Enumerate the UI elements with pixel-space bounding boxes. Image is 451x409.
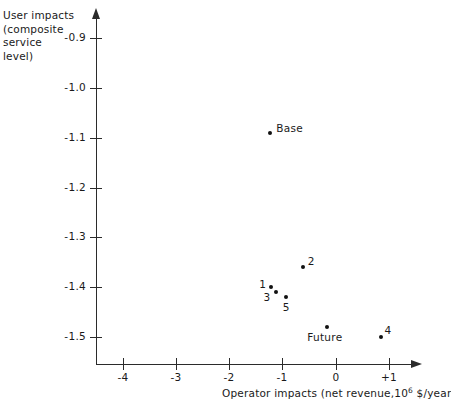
data-point-marker — [301, 265, 305, 269]
data-point-label: 4 — [385, 324, 392, 336]
y-tick-label: -1.1 — [64, 131, 86, 143]
y-axis-arrow-icon — [92, 8, 100, 19]
x-tick-mark — [229, 358, 230, 370]
y-tick-mark — [90, 38, 102, 39]
data-point-label: Future — [307, 331, 342, 343]
y-tick-mark — [90, 88, 102, 89]
x-tick-label: -3 — [170, 371, 181, 383]
x-axis-title: Operator impacts (net revenue,106 $/year — [222, 387, 451, 399]
y-tick-label: -1.5 — [64, 330, 86, 342]
y-tick-mark — [90, 237, 102, 238]
x-tick-mark — [336, 358, 337, 370]
data-point-label: 3 — [264, 291, 271, 303]
y-tick-label: -1.2 — [64, 181, 86, 193]
x-axis-arrow-icon — [411, 360, 422, 368]
y-axis-title-line-3: level) — [3, 50, 98, 64]
y-tick-label: -0.9 — [64, 31, 86, 43]
data-point-marker — [325, 325, 329, 329]
x-tick-label: -4 — [117, 371, 128, 383]
y-tick-mark — [90, 188, 102, 189]
x-tick-mark — [389, 358, 390, 370]
y-tick-mark — [90, 337, 102, 338]
data-point-marker — [268, 131, 272, 135]
x-tick-label: 0 — [333, 371, 340, 383]
data-point-label: 2 — [308, 255, 315, 267]
x-tick-label: +1 — [381, 371, 397, 383]
x-tick-mark — [176, 358, 177, 370]
y-tick-mark — [90, 287, 102, 288]
data-point-label: 5 — [283, 301, 290, 313]
data-point-label: 1 — [259, 278, 266, 290]
x-tick-mark — [282, 358, 283, 370]
y-tick-mark — [90, 138, 102, 139]
data-point-label: Base — [276, 122, 303, 134]
x-tick-label: -2 — [223, 371, 234, 383]
data-point-marker — [284, 295, 288, 299]
y-tick-label: -1.3 — [64, 230, 86, 242]
x-axis-line — [96, 364, 413, 365]
y-tick-label: -1.0 — [64, 81, 86, 93]
y-tick-label: -1.4 — [64, 280, 86, 292]
x-axis-title-before: Operator impacts (net revenue,10 — [222, 387, 408, 399]
y-axis-title-line-1: User impacts — [3, 9, 98, 23]
x-tick-label: -1 — [276, 371, 287, 383]
x-axis-title-after: $/year — [413, 387, 451, 399]
data-point-marker — [269, 285, 273, 289]
x-tick-mark — [123, 358, 124, 370]
data-point-marker — [379, 335, 383, 339]
data-point-marker — [274, 290, 278, 294]
y-axis-line — [96, 16, 97, 365]
